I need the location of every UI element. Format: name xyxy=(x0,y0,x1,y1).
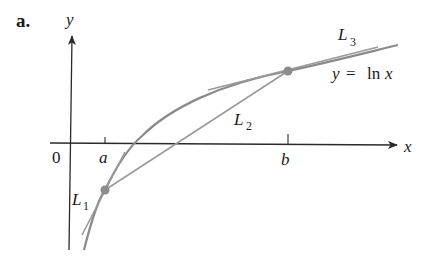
label-l1: L 1 xyxy=(71,190,89,213)
svg-text:3: 3 xyxy=(350,35,356,49)
svg-text:x: x xyxy=(384,64,393,83)
svg-text:2: 2 xyxy=(246,119,252,133)
point-b xyxy=(284,67,293,76)
point-a xyxy=(101,186,110,195)
panel-label: a. xyxy=(16,10,30,31)
x-axis-label: x xyxy=(403,137,412,156)
secant-line-l2 xyxy=(105,71,288,190)
svg-text:L: L xyxy=(233,110,243,129)
tick-label-b: b xyxy=(281,150,290,169)
svg-text:y: y xyxy=(330,64,340,83)
ln-tangent-diagram: a. y x 0 a b L 1 L 2 L 3 y = ln x xyxy=(0,0,423,265)
label-l3: L 3 xyxy=(337,25,356,49)
tick-label-a: a xyxy=(99,148,108,167)
svg-text:L: L xyxy=(337,25,347,44)
y-axis-label: y xyxy=(64,10,74,29)
origin-label: 0 xyxy=(52,148,61,167)
label-l2: L 2 xyxy=(233,110,252,133)
svg-text:L: L xyxy=(71,190,81,209)
curve-equation-label: y = ln x xyxy=(330,64,393,83)
svg-text:ln: ln xyxy=(367,64,381,83)
x-axis xyxy=(50,143,397,145)
svg-text:1: 1 xyxy=(83,199,89,213)
svg-text:=: = xyxy=(346,64,356,83)
